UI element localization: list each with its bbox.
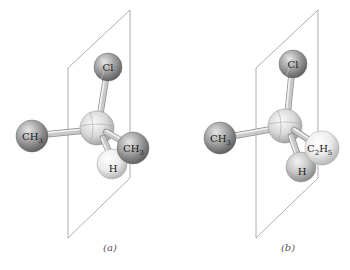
chirality-figure: Cl CH3 H	[0, 0, 350, 270]
atom-center-carbon	[80, 111, 114, 145]
panel-caption-b: (b)	[281, 242, 295, 253]
atom-center-carbon	[268, 109, 302, 143]
atom-label-top: Cl	[103, 62, 114, 73]
panel-a: Cl CH3 H	[16, 10, 149, 253]
atom-label-front: H	[109, 163, 118, 174]
atom-top: Cl	[94, 53, 122, 81]
atom-left: CH3	[16, 120, 48, 152]
panel-b: Cl CH3 H C2H5 (b)	[204, 10, 339, 253]
atom-right: CH3	[117, 132, 149, 164]
atom-label-front: H	[298, 166, 307, 177]
atom-right: C2H5	[305, 131, 339, 165]
panel-caption-a: (a)	[103, 242, 117, 253]
atom-top: Cl	[279, 50, 307, 78]
atom-label-top: Cl	[288, 59, 299, 70]
atom-left: CH3	[204, 122, 236, 154]
